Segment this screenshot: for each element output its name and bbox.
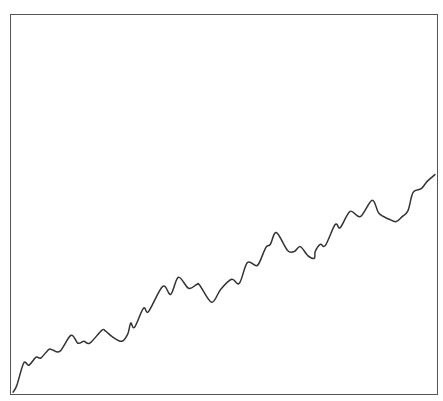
chart-canvas xyxy=(0,0,443,401)
line-chart xyxy=(0,0,443,401)
